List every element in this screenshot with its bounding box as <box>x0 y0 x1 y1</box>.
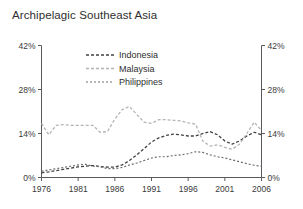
y-axis-right-ticks: 0%14%28%42% <box>262 41 285 183</box>
x-tick-label: 2006 <box>252 184 271 194</box>
y-tick-label-right: 28% <box>268 85 285 95</box>
x-tick-label: 1991 <box>142 184 161 194</box>
chart-legend: IndonesiaMalaysiaPhilippines <box>86 50 163 87</box>
x-tick-label: 1976 <box>32 184 51 194</box>
data-series-group <box>42 106 262 172</box>
y-tick-label-left: 28% <box>18 85 35 95</box>
x-tick-label: 2001 <box>215 184 234 194</box>
legend-label-philippines: Philippines <box>119 77 163 87</box>
series-line-philippines <box>42 152 262 171</box>
legend-label-malaysia: Malaysia <box>119 64 155 74</box>
line-chart: 0%14%28%42% 0%14%28%42% 1976198119861991… <box>0 0 303 209</box>
y-tick-label-right: 42% <box>268 41 285 51</box>
y-tick-label-left: 14% <box>18 129 35 139</box>
y-tick-label-left: 0% <box>23 173 36 183</box>
legend-label-indonesia: Indonesia <box>119 50 158 60</box>
y-tick-label-left: 42% <box>18 41 35 51</box>
x-tick-label: 1996 <box>179 184 198 194</box>
y-axis-left-ticks: 0%14%28%42% <box>18 41 41 183</box>
y-tick-label-right: 0% <box>268 173 281 183</box>
x-axis-ticks: 1976198119861991199620012006 <box>32 178 271 194</box>
series-line-indonesia <box>42 132 262 173</box>
x-tick-label: 1981 <box>69 184 88 194</box>
chart-svg: 0%14%28%42% 0%14%28%42% 1976198119861991… <box>0 0 303 209</box>
chart-page: Archipelagic Southeast Asia 0%14%28%42% … <box>0 0 303 209</box>
x-tick-label: 1986 <box>105 184 124 194</box>
y-tick-label-right: 14% <box>268 129 285 139</box>
